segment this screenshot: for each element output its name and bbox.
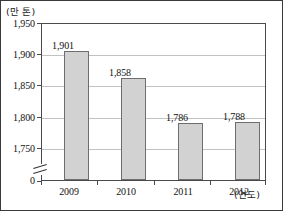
- y-tick-label-1750: 1,750: [0, 144, 35, 154]
- x-tickmark-2: [154, 181, 155, 185]
- y-tick-label-1850: 1,850: [0, 81, 35, 91]
- axis-break-icon: [33, 161, 47, 177]
- x-tick-label-2009: 2009: [42, 187, 96, 197]
- bar-value-label-2012: 1,788: [209, 112, 259, 122]
- bar-chart-figure: (만 톤) 1,950 1,900 1,850 1,800 1,750 0 1,…: [0, 0, 283, 211]
- x-tickmark-4: [265, 181, 266, 185]
- x-tickmark-3: [210, 181, 211, 185]
- y-tickmark-1850: [37, 85, 41, 86]
- bar-value-label-2011: 1,786: [152, 113, 202, 123]
- y-tickmark-1750: [37, 148, 41, 149]
- x-tick-label-2010: 2010: [99, 187, 153, 197]
- bar-value-label-2009: 1,901: [38, 41, 88, 51]
- x-tick-label-2011: 2011: [156, 187, 210, 197]
- y-tickmark-1900: [37, 54, 41, 55]
- y-axis-unit-caption: (만 톤): [6, 4, 35, 18]
- y-tick-label-1950: 1,950: [0, 19, 35, 29]
- bar-2011: [178, 123, 203, 180]
- x-tickmark-1: [97, 181, 98, 185]
- x-tickmark-0: [41, 181, 42, 185]
- y-tickmark-1950: [37, 23, 41, 24]
- y-tick-label-0: 0: [0, 176, 35, 186]
- bar-2010: [121, 78, 146, 180]
- bar-value-label-2010: 1,858: [95, 68, 145, 78]
- y-tick-label-1900: 1,900: [0, 50, 35, 60]
- bar-2012: [235, 122, 260, 180]
- y-tickmark-1800: [37, 117, 41, 118]
- x-axis-caption: (연도): [234, 187, 260, 201]
- y-tick-label-1800: 1,800: [0, 113, 35, 123]
- bar-2009: [64, 51, 89, 180]
